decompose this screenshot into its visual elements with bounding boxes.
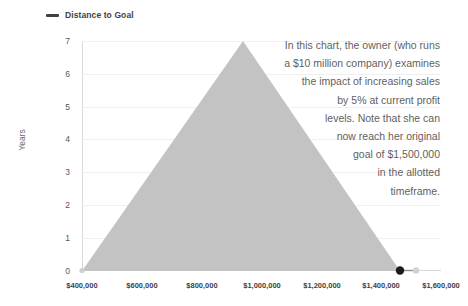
gridline-2 [82,205,441,206]
y-axis-tick-labels: 7 6 5 4 3 2 1 0 [0,0,78,306]
y-tick-3: 3 [65,167,70,177]
chart-annotation: In this chart, the owner (who runs a $10… [250,36,440,200]
annotation-line-3: the impact of increasing sales [250,72,440,90]
x-tick-1600000: $1,600,000 [422,281,460,291]
annotation-line-6: now reach her original [250,127,440,145]
annotation-line-2: a $10 million company) examines [250,54,440,72]
annotation-line-8: in the allotted [250,163,440,181]
x-tick-400000: $400,000 [66,281,97,291]
x-tick-1000000: $1,000,000 [243,281,281,291]
gridline-1 [82,238,441,239]
x-tick-600000: $600,000 [126,281,157,291]
y-tick-1: 1 [65,233,70,243]
y-tick-4: 4 [65,134,70,144]
annotation-line-4: by 5% at current profit [250,91,440,109]
chart-container: Distance to Goal Years 7 6 5 4 3 2 1 0 $… [0,0,468,306]
x-axis-tick-labels: $400,000 $600,000 $800,000 $1,000,000 $1… [0,281,468,301]
annotation-line-1: In this chart, the owner (who runs [250,36,440,54]
y-tick-2: 2 [65,200,70,210]
y-tick-6: 6 [65,69,70,79]
x-tick-800000: $800,000 [186,281,217,291]
y-tick-0: 0 [65,266,70,276]
annotation-line-7: goal of $1,500,000 [250,145,440,163]
annotation-line-5: levels. Note that she can [250,109,440,127]
y-tick-7: 7 [65,36,70,46]
x-tick-1400000: $1,400,000 [362,281,400,291]
x-tick-1200000: $1,200,000 [303,281,341,291]
y-tick-5: 5 [65,102,70,112]
annotation-line-9: timeframe. [250,182,440,200]
x-axis-line [82,270,441,271]
